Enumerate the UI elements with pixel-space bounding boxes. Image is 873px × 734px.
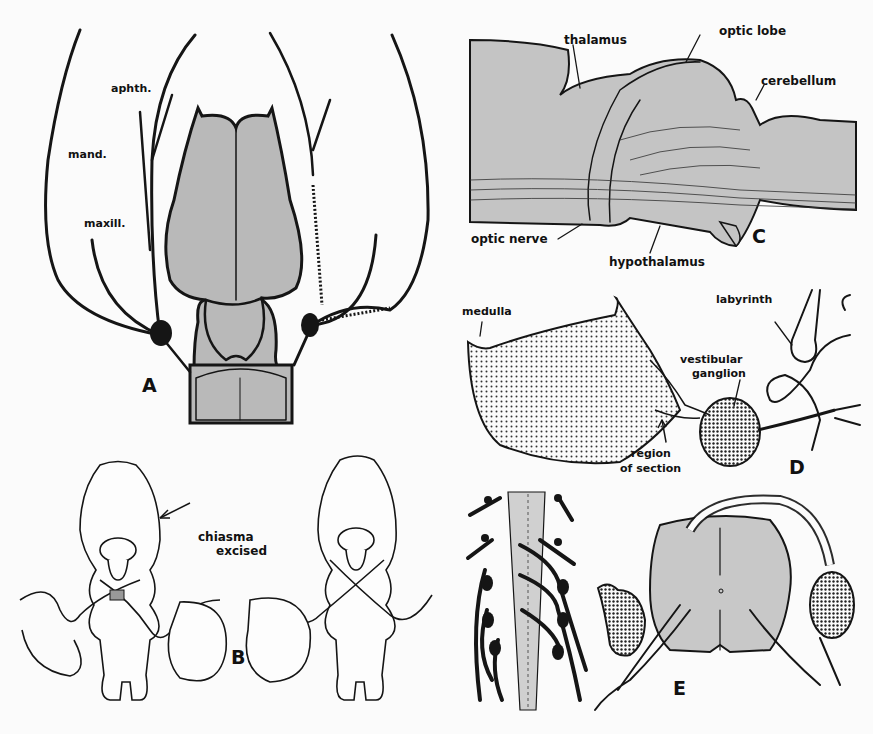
label-of-section: of section [620,462,681,475]
panel-b-drawing [0,430,440,734]
panel-letter-b: B [231,646,245,668]
panel-d: medulla labyrinth vestibular ganglion re… [440,270,873,490]
label-vestibular: vestibular [680,353,743,366]
label-excised: excised [216,545,267,558]
panel-letter-c: C [752,225,766,247]
label-cerebellum: cerebellum [761,75,836,88]
label-optic-lobe: optic lobe [719,25,786,38]
panel-e-drawing [440,480,873,734]
label-ophthalmic: aphth. [111,82,151,95]
panel-b: chiasma excised B [0,430,440,734]
label-medulla: medulla [462,305,512,318]
panel-e: E [440,480,873,734]
panel-c: thalamus optic lobe cerebellum optic ner… [440,0,873,270]
label-region: region [631,447,671,460]
label-thalamus: thalamus [564,34,627,47]
panel-letter-a: A [142,374,157,396]
label-chiasma: chiasma [198,531,254,544]
label-hypothalamus: hypothalamus [609,256,705,269]
label-optic-nerve: optic nerve [471,233,548,246]
panel-a-drawing [0,0,440,430]
label-maxillary: maxill. [84,217,125,230]
panel-letter-d: D [789,456,805,478]
panel-letter-e: E [673,677,686,699]
label-ganglion: ganglion [692,367,746,380]
label-mandibular: mand. [68,148,107,161]
panel-a: aphth. mand. maxill. A [0,0,440,430]
label-labyrinth: labyrinth [716,293,772,306]
panel-c-drawing [440,0,873,270]
